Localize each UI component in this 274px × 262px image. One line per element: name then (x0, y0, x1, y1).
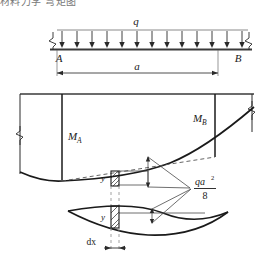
dx-label: dx (87, 237, 97, 247)
moment-MB-subscript: B (202, 118, 207, 127)
bending-moment-figure: 材料力学 弯矩图 (0, 0, 274, 262)
projection-dashed-lines (111, 186, 119, 208)
lower-element-hatch (111, 206, 119, 228)
peak-value-denominator: 8 (203, 190, 208, 201)
distributed-load-arrowheads (59, 42, 244, 48)
moment-MB-label-group: M B (192, 112, 207, 127)
figure-canvas: q A B a (0, 0, 274, 262)
support-right-label: B (235, 52, 242, 64)
upper-peak-leader (148, 157, 190, 188)
beam-right-break-symbol (245, 32, 252, 50)
peak-value-numerator: qa (195, 176, 205, 187)
support-left-label: A (55, 52, 63, 64)
load-label: q (133, 15, 139, 27)
moment-panel: M A M B y (16, 94, 255, 201)
lower-segment-bottom-curve (68, 211, 228, 235)
dx-extension-lines (111, 228, 119, 250)
moment-MA-subscript: A (76, 136, 82, 145)
peak-value-exponent: 2 (211, 174, 214, 181)
lower-element-strip (111, 206, 119, 228)
moment-MA-label-group: M A (67, 130, 82, 145)
lower-peak-leader (152, 189, 191, 223)
moment-chord-dashed (62, 157, 215, 181)
beam-left-break-symbol (49, 32, 56, 50)
lower-ordinate-label: y (100, 212, 105, 222)
beam-panel: q A B a (49, 15, 252, 76)
span-label: a (134, 60, 140, 72)
parabola-peak-value-label: qa 2 8 (194, 174, 216, 201)
upper-ordinate-label: y (100, 173, 105, 183)
moment-parabola-curve (20, 107, 254, 181)
